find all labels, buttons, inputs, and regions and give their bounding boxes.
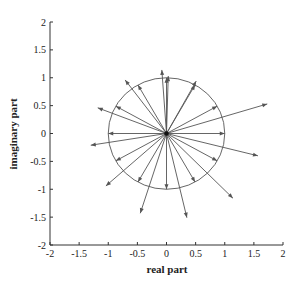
y-tick-label: 0.5: [34, 100, 47, 111]
arrowhead-icon: [98, 108, 103, 112]
y-tick-label: 0: [41, 128, 46, 139]
vector-line: [162, 70, 167, 134]
y-tick-label: -0.5: [30, 156, 46, 167]
arrowhead-icon: [220, 132, 225, 136]
y-tick-label: 1.5: [34, 44, 47, 55]
origin-point: [164, 131, 168, 135]
complex-plane-chart: -2-1.5-1-0.500.511.52-2-1.5-1-0.500.511.…: [0, 0, 300, 289]
x-tick-label: 0.5: [189, 248, 202, 259]
x-tick-label: 1.5: [248, 248, 261, 259]
vector-line: [167, 134, 258, 156]
vector-line: [167, 134, 187, 218]
arrowhead-icon: [262, 103, 267, 107]
x-tick-label: 2: [281, 248, 286, 259]
arrowhead-icon: [160, 70, 164, 75]
x-tick-label: 1: [222, 248, 227, 259]
arrowhead-icon: [91, 142, 96, 146]
arrowhead-icon: [191, 177, 195, 182]
arrowhead-icon: [212, 157, 217, 161]
y-tick-label: -1: [38, 184, 46, 195]
y-tick-label: -1.5: [30, 212, 46, 223]
x-tick-label: -1.5: [71, 248, 87, 259]
vectors: [91, 70, 267, 218]
arrowhead-icon: [116, 157, 121, 161]
y-tick-label: -2: [38, 240, 46, 251]
x-axis-label: real part: [146, 263, 187, 275]
arrowhead-icon: [165, 184, 169, 189]
arrowhead-icon: [108, 132, 113, 136]
arrowhead-icon: [140, 208, 144, 213]
arrowhead-icon: [138, 85, 142, 90]
arrowhead-icon: [138, 177, 142, 182]
x-tick-label: -2: [46, 248, 54, 259]
x-tick-label: -1: [104, 248, 112, 259]
series-resultant-vectors: [91, 70, 267, 218]
y-tick-label: 2: [41, 17, 46, 28]
arrowhead-icon: [116, 106, 121, 110]
y-axis-label: imaginary part: [7, 98, 19, 170]
arrowhead-icon: [212, 106, 217, 110]
x-tick-label: 0: [164, 248, 169, 259]
y-tick-label: 1: [41, 72, 46, 83]
x-tick-label: -0.5: [129, 248, 145, 259]
